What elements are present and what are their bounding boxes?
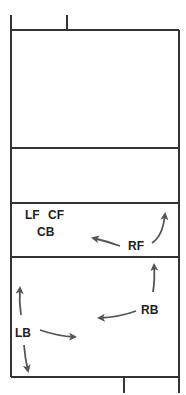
label-left-back: LB [15, 326, 31, 340]
label-left-front: LF [25, 208, 40, 222]
rf-left-arrow-icon [93, 238, 120, 246]
lb-right-arrow-icon [40, 330, 75, 337]
label-center-front: CF [48, 208, 64, 222]
lb-up-arrow-icon [20, 288, 21, 315]
rb-up-arrow-icon [153, 265, 154, 292]
label-right-front: RF [128, 239, 144, 253]
position-labels: LF CF CB RF RB LB [15, 208, 159, 340]
rf-up-right-arrow-icon [152, 214, 165, 243]
volleyball-court-diagram: LF CF CB RF RB LB [0, 0, 186, 395]
court-lines [11, 15, 179, 393]
lb-down-arrow-icon [24, 345, 28, 371]
label-right-back: RB [141, 303, 159, 317]
rb-left-arrow-icon [99, 311, 136, 318]
label-center-back: CB [37, 225, 55, 239]
